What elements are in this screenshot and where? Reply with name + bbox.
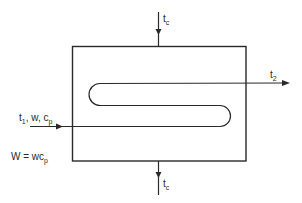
- capacity-rate-equation: W = wcp: [11, 151, 48, 165]
- coolant-inlet-arrow-icon: [156, 29, 162, 35]
- vessel-box: [73, 47, 247, 162]
- coolant-in-label: tc: [163, 13, 170, 26]
- outlet-temp-label: t2: [270, 69, 277, 82]
- outlet-arrow-icon: [282, 80, 290, 86]
- heat-exchanger-diagram: tc tc t2 t1, w, cp W = wcp: [0, 0, 302, 203]
- coolant-out-label: tc: [163, 178, 170, 191]
- inlet-arrow-icon: [56, 124, 63, 130]
- coil-tube: [30, 83, 287, 127]
- inlet-conditions-label: t1, w, cp: [19, 112, 52, 126]
- coolant-outlet-arrow-icon: [156, 172, 162, 178]
